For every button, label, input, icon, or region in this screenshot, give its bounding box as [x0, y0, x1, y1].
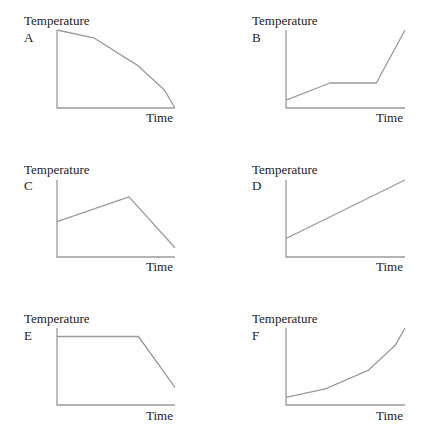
- panel-e-axes: [57, 328, 175, 405]
- panel-a-xlabel: Time: [146, 110, 173, 125]
- panel-d-xlabel: Time: [376, 259, 403, 274]
- panel-a-ylabel: Temperature: [24, 13, 90, 28]
- panel-b: Temperature B Time: [252, 13, 405, 125]
- panel-f-label: F: [252, 328, 259, 343]
- panel-f-curve: [286, 328, 405, 397]
- panel-c-curve: [57, 197, 175, 248]
- panel-c-axes: [57, 180, 175, 257]
- six-graphs-figure: Temperature A Time Temperature B Time Te…: [0, 0, 426, 439]
- panel-d-label: D: [252, 178, 261, 193]
- panel-b-label: B: [252, 30, 261, 45]
- panel-d-ylabel: Temperature: [252, 162, 318, 177]
- panel-b-axes: [286, 30, 405, 108]
- panel-e: Temperature E Time: [24, 311, 175, 423]
- panel-a-axes: [57, 30, 175, 108]
- panel-e-ylabel: Temperature: [24, 311, 90, 326]
- panel-c-label: C: [24, 178, 33, 193]
- panel-c-xlabel: Time: [146, 259, 173, 274]
- panel-b-curve: [286, 30, 405, 100]
- panel-d: Temperature D Time: [252, 162, 405, 274]
- panel-e-label: E: [24, 328, 32, 343]
- panel-b-ylabel: Temperature: [252, 13, 318, 28]
- panel-f-ylabel: Temperature: [252, 311, 318, 326]
- panel-f: Temperature F Time: [252, 311, 405, 423]
- panel-d-curve: [286, 180, 405, 239]
- panel-a: Temperature A Time: [24, 13, 175, 125]
- panel-e-curve: [57, 337, 175, 388]
- panel-e-xlabel: Time: [146, 408, 173, 423]
- panel-c-ylabel: Temperature: [24, 162, 90, 177]
- panel-a-curve: [57, 30, 175, 108]
- panel-f-xlabel: Time: [376, 408, 403, 423]
- panel-c: Temperature C Time: [24, 162, 175, 274]
- panel-b-xlabel: Time: [376, 110, 403, 125]
- panel-d-axes: [286, 180, 405, 257]
- panel-a-label: A: [24, 30, 34, 45]
